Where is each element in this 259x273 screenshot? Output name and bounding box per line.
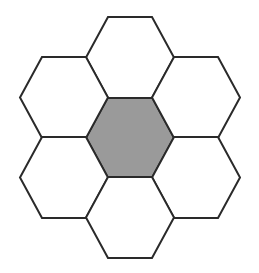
hexagon-diagram xyxy=(0,0,259,273)
honeycomb-canvas xyxy=(0,0,259,273)
